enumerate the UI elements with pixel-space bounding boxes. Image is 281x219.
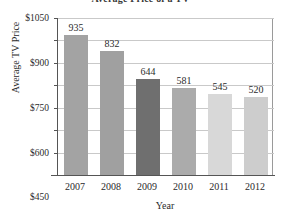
y-axis-tick: $300: [54, 130, 58, 131]
y-axis-tick: $750: [54, 63, 58, 64]
bar-value-label: 520: [249, 84, 264, 95]
bar: 935: [64, 35, 88, 175]
bar-value-label: 581: [177, 75, 192, 86]
x-axis-tick-label: 2011: [209, 181, 229, 192]
y-axis-tick-label: $1050: [25, 13, 49, 23]
y-axis-tick: $450: [54, 108, 58, 109]
chart-title: Average Price of a TV: [0, 0, 281, 4]
bar-value-label: 545: [213, 81, 228, 92]
bar-value-label: 644: [141, 66, 156, 77]
x-axis-line: [51, 175, 275, 176]
gridline: [58, 108, 274, 109]
plot-area: $150$300$450$600$750$900$1050 9358326445…: [57, 18, 273, 175]
gridline: [58, 40, 274, 41]
x-axis-tick-label: 2008: [101, 181, 121, 192]
bar: 581: [172, 88, 196, 175]
y-axis-tick-label: $600: [30, 148, 49, 158]
gridline: [58, 130, 274, 131]
bar: 644: [136, 79, 160, 175]
bar: 520: [244, 97, 268, 175]
bar-value-label: 935: [69, 22, 84, 33]
y-axis-title: Average TV Price: [10, 0, 21, 118]
x-axis-tick-label: 2009: [137, 181, 157, 192]
x-axis-tick-label: 2012: [245, 181, 265, 192]
bar: 832: [100, 51, 124, 175]
x-axis-tick-label: 2010: [173, 181, 193, 192]
gridline: [58, 18, 274, 19]
y-axis-tick: $150: [54, 153, 58, 154]
bar-value-label: 832: [105, 38, 120, 49]
y-axis-tick: $1050: [54, 18, 58, 19]
gridline: [58, 63, 274, 64]
y-axis-tick: $900: [54, 40, 58, 41]
gridline: [58, 85, 274, 86]
y-axis-tick-label: $900: [30, 58, 49, 68]
gridline: [58, 153, 274, 154]
x-axis-title: Year: [55, 200, 275, 211]
y-axis-tick-label: $750: [30, 103, 49, 113]
bar-chart-figure: Average Price of a TV Average TV Price $…: [0, 0, 281, 219]
x-axis-tick-label: 2007: [65, 181, 85, 192]
bar: 545: [208, 94, 232, 175]
y-axis-tick: $600: [54, 85, 58, 86]
y-axis-tick-label: $450: [30, 192, 49, 202]
